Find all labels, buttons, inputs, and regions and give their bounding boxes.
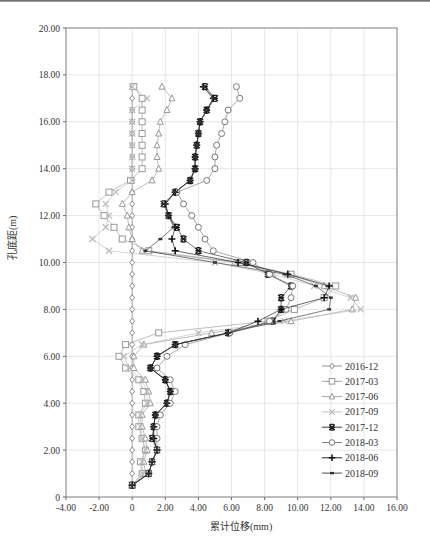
y-tick-label: 12.00 — [39, 211, 61, 221]
legend-label: 2017-03 — [345, 376, 378, 387]
legend-label: 2018-09 — [345, 468, 378, 479]
x-tick-label: 12.00 — [320, 503, 342, 513]
y-axis-label: 孔底距(m) — [4, 216, 19, 260]
y-tick-label: 14.00 — [39, 164, 61, 174]
legend-label: 2018-03 — [345, 437, 378, 448]
legend-label: 2017-09 — [345, 406, 378, 417]
y-tick-label: 6.00 — [43, 352, 60, 362]
y-tick-label: 4.00 — [43, 399, 60, 409]
x-tick-label: 16.00 — [386, 503, 408, 513]
x-tick-label: 14.00 — [353, 503, 375, 513]
y-tick-label: 2.00 — [43, 446, 60, 456]
y-tick-label: 16.00 — [39, 117, 61, 127]
legend-label: 2016-12 — [345, 361, 378, 372]
x-tick-label: -2.00 — [89, 503, 109, 513]
y-tick-label: 20.00 — [39, 24, 61, 34]
x-tick-label: 8.00 — [256, 503, 273, 513]
x-axis-label: 累计位移(mm) — [210, 518, 272, 533]
legend-label: 2017-12 — [345, 422, 378, 433]
legend-label: 2017-06 — [345, 391, 378, 402]
x-tick-label: 6.00 — [223, 503, 240, 513]
x-tick-label: -4.00 — [56, 503, 76, 513]
x-tick-label: 0 — [130, 503, 135, 513]
x-tick-label: 4.00 — [190, 503, 207, 513]
y-tick-label: 0 — [55, 493, 60, 503]
y-tick-label: 10.00 — [39, 258, 61, 268]
legend-label: 2018-06 — [345, 452, 378, 463]
y-tick-label: 8.00 — [43, 305, 60, 315]
series-layer — [89, 83, 363, 489]
y-tick-label: 18.00 — [39, 70, 61, 80]
x-tick-label: 10.00 — [287, 503, 309, 513]
deflection-chart: -4.00-2.0002.004.006.008.0010.0012.0014.… — [0, 0, 430, 553]
x-tick-label: 2.00 — [157, 503, 174, 513]
